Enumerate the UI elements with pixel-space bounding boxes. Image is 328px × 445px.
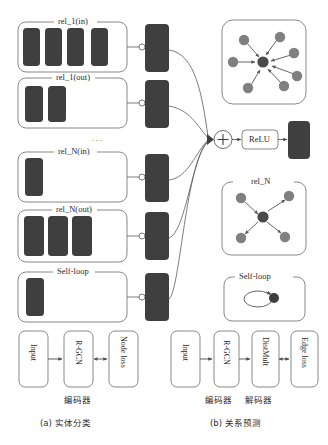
relu-label: ReLU <box>249 135 270 144</box>
right-encoder-label: 编码器 <box>205 396 232 405</box>
figure-canvas: rel_1(in) rel_1(out) rel_N(in) rel_N(out… <box>0 0 328 445</box>
group-label-rel-n-out: rel_N(out) <box>54 205 94 214</box>
diagram-vector-layer <box>0 0 328 445</box>
left-pipeline-box-input: Input <box>29 344 37 361</box>
group-label-rel-1-out: rel_1(out) <box>54 73 92 82</box>
right-pipeline-box-input: Input <box>181 344 189 361</box>
graph-top-center-node <box>257 56 268 67</box>
group-label-rel-1-in: rel_1(in) <box>56 17 90 26</box>
aggregation-curves <box>169 50 208 299</box>
connector-nodes <box>139 44 145 300</box>
group-label-self-loop-left: Self-loop <box>55 267 91 276</box>
group-to-block-connectors <box>127 47 139 297</box>
group-ellipsis: ... <box>92 134 103 143</box>
transformed-message-blocks <box>145 24 169 321</box>
left-pipeline-box-rgcn: R-GCN <box>74 340 82 365</box>
graph-label-self-loop-right: Self-loop <box>237 272 273 281</box>
right-pipeline-box-edge-loss: Edge loss <box>300 337 308 368</box>
right-decoder-label: 解码器 <box>245 396 272 405</box>
aggregation-arrowhead <box>207 134 214 145</box>
graph-label-rel-n: rel_N <box>249 177 272 186</box>
self-loop-node <box>269 293 279 303</box>
right-figure-caption: (b) 关系预测 <box>210 419 261 428</box>
group-label-rel-n-in: rel_N(in) <box>56 147 92 156</box>
left-figure-caption: (a) 实体分类 <box>40 419 91 428</box>
left-pipeline-box-node-loss: Node loss <box>119 336 127 368</box>
right-pipeline-box-rgcn: R-GCN <box>222 340 230 365</box>
left-encoder-label: 编码器 <box>64 396 91 405</box>
output-embedding-block <box>288 121 310 159</box>
graph-rel-n-center-node <box>257 211 268 222</box>
right-pipeline-box-distmult: DistMult <box>261 337 269 366</box>
self-loop-arc <box>244 291 272 307</box>
